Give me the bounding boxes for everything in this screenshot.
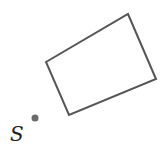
diagram-canvas: S (0, 0, 161, 155)
quadrilateral-shape (46, 14, 156, 115)
point-s-dot (32, 115, 39, 122)
point-s-label: S (10, 122, 24, 146)
